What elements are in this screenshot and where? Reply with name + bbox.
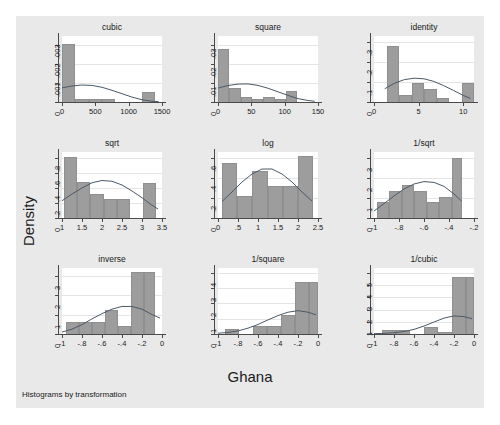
panel-title: log	[218, 138, 318, 148]
x-tick	[162, 219, 163, 222]
y-tick-label: 0	[209, 344, 218, 348]
y-tick	[211, 303, 214, 304]
x-tick	[285, 103, 286, 106]
x-tick	[474, 335, 475, 338]
x-tick	[142, 335, 143, 338]
y-tick-label: 4	[209, 282, 218, 286]
x-tick-label: -.2	[460, 223, 488, 232]
y-tick-label: 3	[365, 168, 374, 172]
x-tick	[62, 103, 63, 106]
y-tick	[211, 158, 214, 159]
y-tick	[367, 158, 370, 159]
x-tick	[318, 335, 319, 338]
x-tick-label: -.6	[410, 223, 438, 232]
y-tick-label: .002	[53, 64, 62, 79]
y-tick-label: 1	[365, 332, 374, 336]
x-tick	[238, 219, 239, 222]
y-tick-label: 0	[53, 344, 62, 348]
x-tick	[374, 219, 375, 222]
x-tick-label: 0	[460, 339, 488, 348]
x-axis-line	[214, 218, 322, 219]
y-tick	[55, 315, 58, 316]
top-cutoff-row	[0, 0, 500, 14]
x-tick	[434, 335, 435, 338]
x-tick	[95, 103, 96, 106]
density-curve	[62, 268, 162, 334]
x-tick	[62, 335, 63, 338]
panel-title: 1/square	[218, 254, 318, 264]
y-tick-label: .4	[53, 196, 62, 202]
y-tick-label: 0	[209, 112, 218, 116]
x-tick	[318, 103, 319, 106]
panel-title: 1/cubic	[374, 254, 474, 264]
density-curve	[62, 36, 162, 102]
panel-sqrt: sqrt11.522.533.50.2.4.6.8	[16, 138, 172, 254]
y-tick-label: .2	[209, 206, 218, 212]
x-tick-label: -.8	[385, 223, 413, 232]
y-tick-label: .02	[209, 68, 218, 78]
y-axis-line	[58, 265, 59, 334]
x-tick	[102, 219, 103, 222]
x-tick	[278, 219, 279, 222]
y-tick-label: 1	[209, 328, 218, 332]
panel-title: cubic	[62, 22, 162, 32]
y-tick	[367, 62, 370, 63]
y-tick-label: .001	[53, 83, 62, 98]
y-tick-label: .2	[365, 70, 374, 76]
y-tick-label: .3	[365, 50, 374, 56]
panel-1-square: 1/square-1-.8-.6-.4-.2001234	[172, 254, 328, 370]
panel-title: square	[218, 22, 318, 32]
y-tick-label: .03	[209, 49, 218, 59]
y-tick	[55, 276, 58, 277]
x-tick	[258, 335, 259, 338]
x-tick	[374, 103, 375, 106]
screenshot-root: cubic0500100015000.001.002.003square0501…	[0, 0, 500, 425]
y-tick-label: 3	[53, 286, 62, 290]
y-tick-label: 2	[53, 305, 62, 309]
y-tick	[367, 42, 370, 43]
plot-area	[374, 36, 474, 102]
plot-area	[218, 268, 318, 334]
panel-1-cubic: 1/cubic-1-.8-.6-.4-.20012345	[328, 254, 484, 370]
density-curve	[374, 152, 474, 218]
y-tick-label: .01	[209, 87, 218, 97]
y-tick	[55, 218, 58, 219]
y-tick-label: 1	[53, 324, 62, 328]
panel-identity: identity05100.1.2.3	[328, 22, 484, 138]
x-tick	[122, 219, 123, 222]
y-tick	[55, 158, 58, 159]
y-tick	[211, 83, 214, 84]
density-curve	[218, 152, 318, 218]
density-curve	[62, 152, 162, 218]
x-tick	[463, 103, 464, 106]
x-tick	[258, 219, 259, 222]
x-tick	[162, 335, 163, 338]
y-tick	[367, 198, 370, 199]
x-axis-line	[370, 334, 478, 335]
plot-area	[62, 152, 162, 218]
panel-square: square0501001500.01.02.03	[172, 22, 328, 138]
x-tick	[82, 335, 83, 338]
x-tick	[251, 103, 252, 106]
y-tick	[367, 102, 370, 103]
x-tick-label: 5	[405, 107, 433, 116]
y-tick	[211, 319, 214, 320]
y-tick-label: 0	[53, 112, 62, 116]
x-tick	[419, 103, 420, 106]
panel-title: sqrt	[62, 138, 162, 148]
x-tick	[449, 219, 450, 222]
y-tick-label: .003	[53, 45, 62, 60]
x-axis-line	[370, 102, 478, 103]
panel-1-sqrt: 1/sqrt-1-.8-.6-.4-.20123	[328, 138, 484, 254]
y-tick-label: 1	[365, 208, 374, 212]
plot-area	[218, 152, 318, 218]
panel-cubic: cubic0500100015000.001.002.003	[16, 22, 172, 138]
x-tick	[298, 219, 299, 222]
x-tick	[238, 335, 239, 338]
plot-area	[374, 268, 474, 334]
y-tick	[55, 173, 58, 174]
x-axis-line	[214, 334, 322, 335]
density-curve	[374, 36, 474, 102]
panel-title: 1/sqrt	[374, 138, 474, 148]
x-tick	[374, 335, 375, 338]
